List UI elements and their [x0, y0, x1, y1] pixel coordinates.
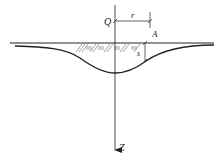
radius-label: r [131, 10, 135, 20]
load-label: Q [104, 16, 112, 27]
depth-axis-label: Z [119, 142, 125, 153]
soil-hatching [76, 44, 140, 52]
settlement-label: s [137, 49, 140, 58]
point-label: A [151, 29, 158, 39]
settlement-dimension [143, 41, 147, 63]
settlement-diagram: Q r A s Z [0, 0, 223, 165]
